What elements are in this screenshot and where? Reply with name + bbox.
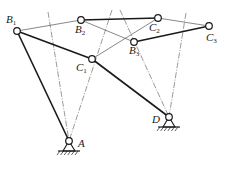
ground-supports (57, 117, 180, 155)
link-c1-d (92, 59, 169, 117)
diagram-canvas (0, 0, 229, 170)
label-a: A (78, 138, 85, 149)
label-c1: C1 (76, 62, 87, 75)
joint-b1-icon (14, 28, 21, 35)
perpendicular-bisectors (48, 10, 186, 141)
construction-line-c2-c3 (158, 18, 209, 26)
label-c3: C3 (206, 32, 217, 45)
label-c2: C2 (149, 22, 160, 35)
link-b3-c3 (134, 26, 209, 42)
label-b3: B3 (129, 45, 139, 58)
label-d: D (152, 114, 160, 125)
linkage-bars (17, 18, 209, 141)
bisector-line (169, 13, 186, 117)
bisector-line (48, 12, 69, 141)
thin-construction-lines (17, 18, 209, 59)
link-b2-c2 (81, 18, 158, 20)
label-b1: B1 (6, 14, 16, 27)
joint-c3-icon (206, 23, 213, 30)
joint-d-icon (166, 114, 173, 121)
label-b2: B2 (75, 24, 85, 37)
joint-a-icon (66, 138, 73, 145)
joint-c1-icon (89, 56, 96, 63)
linkage-diagram: B1B2B3C1C2C3AD (0, 0, 229, 170)
construction-line-b1-b2 (17, 20, 81, 31)
